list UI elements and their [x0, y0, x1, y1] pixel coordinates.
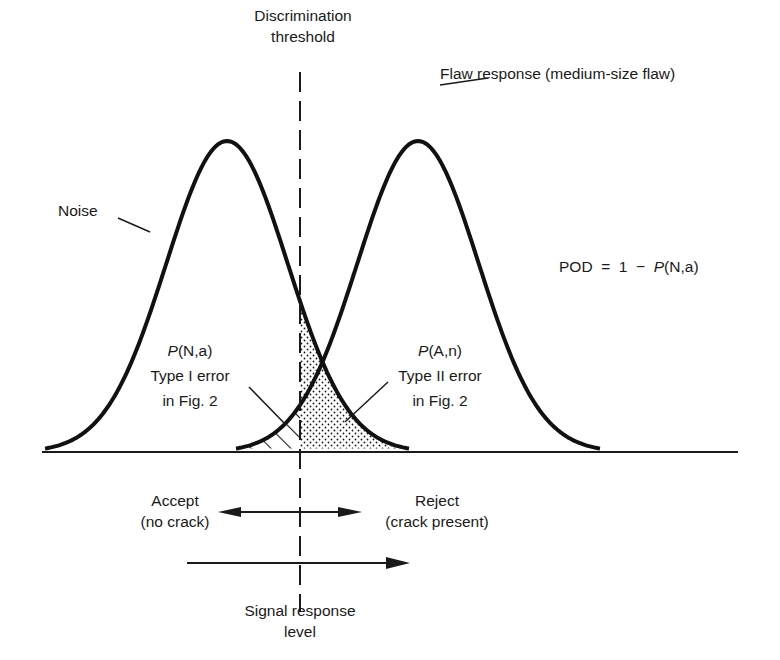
noise-label: Noise	[58, 200, 98, 221]
pod-formula-p: P	[654, 258, 664, 275]
pod-formula-lhs: POD = 1 −	[559, 258, 654, 275]
threshold-label-line1: Discrimination	[228, 5, 378, 26]
type-i-p: P	[168, 342, 178, 359]
reject-label: Reject (crack present)	[372, 490, 502, 532]
signal-response-line2: level	[225, 621, 375, 642]
flaw-response-label: Flaw response (medium-size flaw)	[440, 63, 675, 84]
type-i-leader-line	[249, 387, 286, 425]
accept-label: Accept (no crack)	[130, 490, 220, 532]
signal-response-label: Signal response level	[225, 600, 375, 642]
pod-diagram: Discrimination threshold Flaw response (…	[0, 0, 780, 660]
accept-line2: (no crack)	[130, 511, 220, 532]
type-i-args: (N,a)	[178, 342, 212, 359]
type-ii-probability: P(A,n)	[385, 340, 495, 361]
noise-leader-line	[118, 218, 150, 232]
pod-formula-args: (N,a)	[664, 258, 698, 275]
reject-line2: (crack present)	[372, 511, 502, 532]
type-ii-line2: Type II error	[385, 365, 495, 386]
type-ii-args: (A,n)	[428, 342, 462, 359]
accept-reject-arrow	[218, 507, 362, 517]
type-ii-p: P	[418, 342, 428, 359]
pod-formula: POD = 1 − P(N,a)	[559, 256, 699, 277]
threshold-label-line2: threshold	[228, 26, 378, 47]
type-i-label: P(N,a) Type I error in Fig. 2	[135, 340, 245, 411]
threshold-label: Discrimination threshold	[228, 5, 378, 47]
type-ii-label: P(A,n) Type II error in Fig. 2	[385, 340, 495, 411]
type-i-line3: in Fig. 2	[135, 390, 245, 411]
type-i-line2: Type I error	[135, 365, 245, 386]
reject-line1: Reject	[372, 490, 502, 511]
signal-response-arrow	[187, 557, 410, 569]
accept-line1: Accept	[130, 490, 220, 511]
type-ii-leader-line	[345, 382, 388, 422]
diagram-canvas	[0, 0, 780, 660]
type-i-probability: P(N,a)	[135, 340, 245, 361]
signal-response-line1: Signal response	[225, 600, 375, 621]
type-ii-line3: in Fig. 2	[385, 390, 495, 411]
